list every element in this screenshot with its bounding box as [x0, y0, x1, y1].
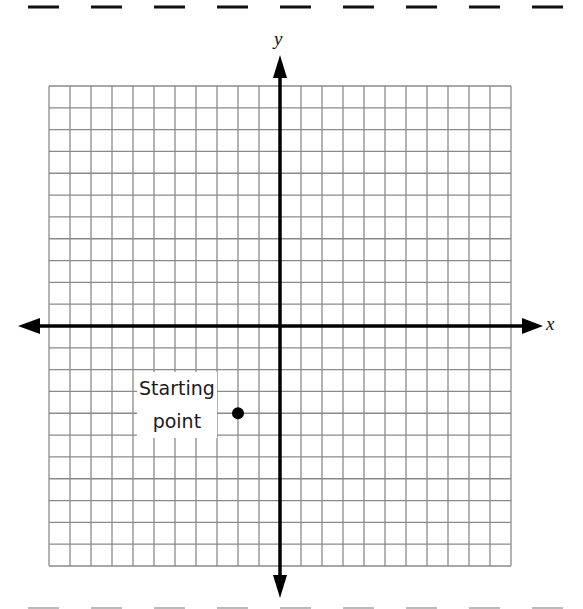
x-axis-label: x	[546, 313, 554, 335]
coordinate-plane	[0, 0, 583, 609]
x-axis-right-arrow-icon	[522, 318, 543, 334]
y-axis-label: y	[274, 28, 282, 50]
starting-point-label-line1: Starting	[139, 372, 215, 405]
y-axis-down-arrow-icon	[273, 575, 287, 598]
starting-point-dot	[232, 407, 244, 419]
starting-point-label: Starting point	[137, 372, 217, 438]
coordinate-plane-worksheet: y x Starting point	[0, 0, 583, 609]
starting-point-label-line2: point	[139, 405, 215, 438]
x-axis-left-arrow-icon	[18, 318, 40, 334]
y-axis-up-arrow-icon	[273, 55, 287, 78]
